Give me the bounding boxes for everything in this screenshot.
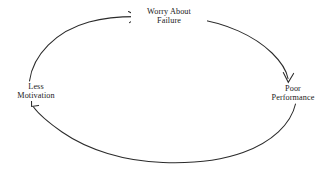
node-label-line: Failure	[132, 16, 206, 25]
node-label-line: Motivation	[4, 91, 68, 100]
node-label-line: Less	[4, 82, 68, 91]
node-label-line: Worry About	[132, 7, 206, 16]
arrow-path-performance-to-motivation	[34, 104, 296, 163]
arrowhead-worry-to-performance	[283, 73, 293, 83]
node-label-less-motivation: Less Motivation	[3, 82, 69, 101]
node-label-line: Poor	[259, 84, 327, 93]
arrow-path-motivation-to-worry	[30, 17, 136, 81]
node-label-poor-performance: Poor Performance	[258, 84, 327, 103]
node-label-worry-about-failure: Worry About Failure	[131, 7, 207, 26]
cycle-diagram: Worry About Failure Poor Performance Les…	[0, 0, 327, 171]
arrowhead-performance-to-motivation	[32, 101, 39, 107]
arrow-path-worry-to-performance	[194, 19, 288, 79]
node-label-line: Performance	[259, 93, 327, 102]
